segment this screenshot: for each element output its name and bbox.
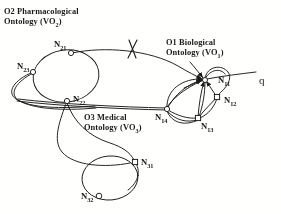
node-n21[interactable] — [68, 50, 73, 55]
edge-q-n11 — [207, 72, 256, 79]
node-label-n23-sub: 23 — [23, 66, 29, 73]
node-label-n32-sub: 32 — [87, 196, 93, 203]
node-label-n12-sub: 12 — [230, 100, 236, 107]
node-label-n12: N12 — [224, 96, 237, 107]
node-label-n31: N31 — [141, 158, 154, 169]
ontology-title-o2: O2 Pharmacological Ontology (VO2) — [4, 7, 79, 27]
node-label-n21-sub: 21 — [60, 44, 66, 51]
ontology-title-o2-line1: O2 Pharmacological — [4, 7, 79, 16]
node-n23[interactable] — [30, 69, 35, 74]
ontology-mapping-figure: O2 Pharmacological Ontology (VO2) O1 Bio… — [0, 0, 281, 214]
node-label-n22-sub: 22 — [79, 99, 85, 106]
node-n12[interactable] — [214, 94, 219, 99]
o1-graph-edges — [167, 62, 230, 123]
ontology-title-o3-line2-prefix: Ontology (VO — [84, 123, 136, 132]
node-label-n13-sub: 13 — [207, 126, 213, 133]
o1-edge-n13-n12-b — [200, 98, 217, 118]
query-label-q: q — [259, 74, 265, 87]
node-label-n14-sub: 14 — [161, 117, 167, 124]
node-n22[interactable] — [64, 98, 69, 103]
o1-edge-n12-n11 — [206, 81, 216, 96]
node-label-n31-sub: 31 — [147, 162, 153, 169]
node-n32[interactable] — [96, 193, 102, 199]
ontology-title-o1: O1 Biological Ontology (VO1) — [166, 38, 224, 58]
o1-edge-n14-n11-inner — [167, 80, 202, 109]
ontology-title-o2-line2-prefix: Ontology (VO — [4, 17, 56, 26]
ontology-title-o1-line1: O1 Biological — [166, 38, 215, 47]
node-label-n23: N23 — [17, 62, 30, 73]
node-label-n22: N22 — [73, 95, 86, 106]
node-n11[interactable] — [203, 78, 208, 83]
o1-cluster-outline-top — [167, 80, 204, 107]
ontology-title-o3: O3 Medical Ontology (VO3) — [84, 113, 142, 133]
ontology-title-o2-suffix: ) — [59, 17, 62, 26]
node-label-n14: N14 — [155, 113, 168, 124]
node-n14[interactable] — [164, 106, 169, 111]
ontology-title-o3-suffix: ) — [139, 123, 142, 132]
node-n13[interactable] — [195, 115, 200, 120]
ontology-title-o1-suffix: ) — [221, 48, 224, 57]
o3-outer-arc — [128, 162, 138, 190]
diagram-canvas — [0, 0, 281, 214]
ontology-title-o1-line2-prefix: Ontology (VO — [166, 48, 218, 57]
node-label-n11: N11 — [218, 76, 230, 87]
node-n31[interactable] — [132, 159, 137, 164]
o2-cycle-edge — [30, 46, 103, 107]
o1-edge-n14-n13 — [168, 110, 197, 118]
ontology-title-o3-line1: O3 Medical — [84, 113, 127, 122]
x-cross-mark-icon — [128, 40, 137, 58]
node-label-n13: N13 — [201, 122, 214, 133]
query-edge — [207, 72, 256, 79]
o1-cluster-outline-bottom — [167, 111, 198, 123]
node-label-n21: N21 — [54, 40, 67, 51]
node-label-n11-sub: 11 — [224, 80, 230, 87]
o1-incoming-arrow-top — [190, 62, 203, 78]
node-label-n32: N32 — [81, 192, 94, 203]
